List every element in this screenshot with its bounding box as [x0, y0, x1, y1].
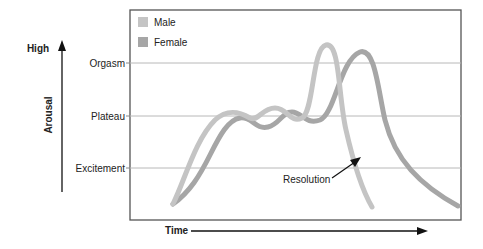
legend-label-male: Male — [154, 17, 176, 28]
y-tick-plateau: Plateau — [91, 111, 125, 122]
legend-label-female: Female — [154, 37, 188, 48]
resolution-annotation: Resolution — [283, 174, 330, 185]
legend-swatch-male — [138, 17, 148, 27]
y-axis-high-label: High — [27, 43, 49, 54]
arousal-chart: Orgasm Plateau Excitement High Arousal T… — [0, 0, 483, 249]
y-tick-orgasm: Orgasm — [89, 58, 125, 69]
legend-swatch-female — [138, 37, 148, 47]
y-tick-excitement: Excitement — [76, 163, 126, 174]
arrow-right-icon — [417, 227, 428, 235]
y-axis-title: Arousal — [43, 96, 54, 133]
x-axis-title: Time — [165, 225, 189, 236]
arrow-up-icon — [58, 40, 66, 51]
